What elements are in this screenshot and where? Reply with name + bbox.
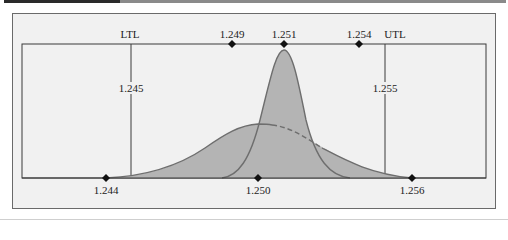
marker-diamond-icon	[102, 174, 110, 182]
marker-diamond-icon	[280, 40, 288, 48]
bottom-rule	[0, 219, 508, 220]
utl-value: 1.255	[372, 82, 399, 94]
marker-diamond-icon	[355, 40, 363, 48]
ltl-label: LTL	[120, 28, 139, 40]
top-marker-label: 1.249	[220, 28, 245, 40]
utl-label: UTL	[384, 28, 405, 40]
marker-diamond-icon	[228, 40, 236, 48]
top-marker-label: 1.251	[272, 28, 297, 40]
marker-diamond-icon	[408, 174, 416, 182]
bottom-marker-label: 1.256	[400, 184, 425, 196]
bottom-marker-label: 1.244	[94, 184, 119, 196]
ltl-value: 1.245	[118, 82, 145, 94]
bottom-marker-label: 1.250	[246, 184, 271, 196]
top-marker-label: 1.254	[347, 28, 372, 40]
